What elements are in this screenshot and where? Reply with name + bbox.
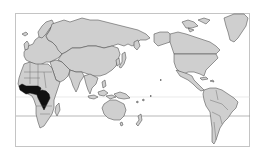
greenland (224, 14, 248, 42)
canada (170, 32, 220, 54)
alaska (154, 32, 172, 46)
tasmania (120, 122, 123, 126)
india (69, 70, 84, 92)
southeast-asia (84, 74, 98, 94)
kamchatka (134, 40, 140, 50)
world-map (0, 0, 265, 155)
arctic-islands (182, 18, 210, 32)
british-isles (24, 41, 29, 50)
madagascar (55, 103, 60, 116)
iceland (22, 32, 28, 36)
pacific-islands (136, 79, 161, 103)
caribbean-islands (200, 77, 214, 82)
australia (102, 100, 126, 120)
new-guinea (114, 92, 130, 99)
